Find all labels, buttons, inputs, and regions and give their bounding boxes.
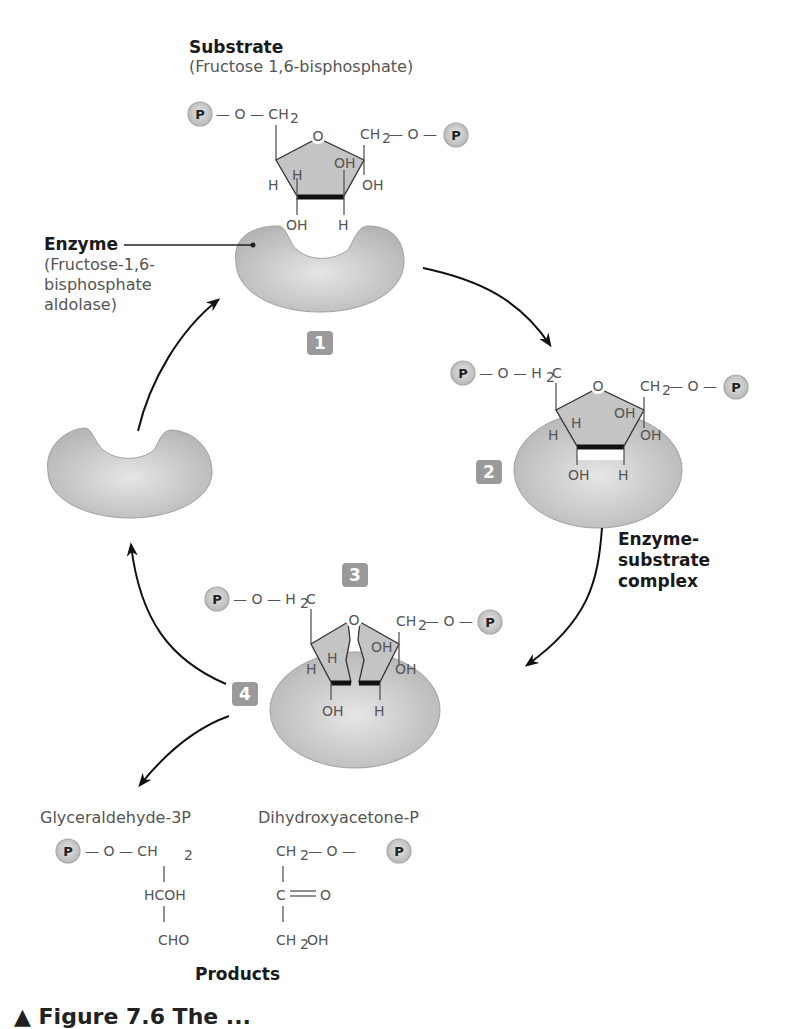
svg-text:— O — CH: — O — CH bbox=[85, 843, 158, 859]
enzyme-name-line-3: aldolase) bbox=[44, 296, 117, 314]
svg-text:OH: OH bbox=[334, 155, 356, 171]
complex-label-line-1: Enzyme- bbox=[618, 530, 699, 549]
complex-label-line-2: substrate bbox=[618, 551, 710, 570]
svg-text:H: H bbox=[548, 427, 559, 443]
svg-text:CH: CH bbox=[360, 126, 380, 142]
substrate-name: (Fructose 1,6-bisphosphate) bbox=[189, 58, 413, 76]
svg-text:C: C bbox=[306, 591, 316, 607]
svg-text:— O — H: — O — H bbox=[233, 591, 296, 607]
svg-text:H: H bbox=[306, 661, 317, 677]
svg-text:H: H bbox=[268, 177, 279, 193]
arrow-step2-to-3 bbox=[527, 528, 602, 665]
svg-text:H: H bbox=[327, 650, 338, 666]
complex-label-line-3: complex bbox=[618, 572, 698, 591]
figure-caption: ▲ Figure 7.6 The ... bbox=[14, 1004, 251, 1029]
arrow-step1-to-2 bbox=[423, 268, 550, 345]
svg-text:O: O bbox=[348, 612, 359, 628]
enzyme-title: Enzyme bbox=[44, 235, 118, 254]
svg-text:OH: OH bbox=[614, 405, 636, 421]
svg-text:H: H bbox=[338, 217, 349, 233]
svg-text:OH: OH bbox=[395, 661, 417, 677]
arrow-step4-to-free bbox=[131, 545, 226, 684]
svg-text:2: 2 bbox=[290, 110, 299, 126]
enzyme-substrate-complex: — O — H 2 C O CH 2 — O — OH OH H H OH H bbox=[451, 361, 748, 528]
svg-text:HCOH: HCOH bbox=[144, 887, 186, 903]
svg-text:H: H bbox=[571, 415, 582, 431]
svg-text:O: O bbox=[312, 128, 323, 144]
substrate-title: Substrate bbox=[189, 38, 283, 57]
svg-text:— O — CH: — O — CH bbox=[216, 106, 289, 122]
step-badge-3: 3 bbox=[342, 563, 368, 587]
svg-text:OH: OH bbox=[640, 427, 662, 443]
svg-text:OH: OH bbox=[371, 639, 393, 655]
svg-text:CH: CH bbox=[276, 932, 296, 948]
svg-text:OH: OH bbox=[307, 932, 329, 948]
svg-text:H: H bbox=[374, 703, 385, 719]
svg-text:OH: OH bbox=[322, 703, 344, 719]
product-dhap-name: Dihydroxyacetone-P bbox=[258, 809, 419, 827]
products-title: Products bbox=[195, 965, 280, 984]
svg-text:— O —: — O — bbox=[425, 613, 473, 629]
svg-text:O: O bbox=[320, 887, 331, 903]
arrow-step4-to-products bbox=[140, 716, 229, 785]
arrow-free-to-step1 bbox=[138, 300, 218, 431]
cleavage-complex: — O — H 2 C O CH 2 — O — OH OH H H OH H bbox=[205, 587, 502, 768]
svg-text:— O —: — O — bbox=[308, 843, 356, 859]
step-badge-2: 2 bbox=[476, 460, 502, 484]
enzyme-shape-1 bbox=[235, 226, 404, 312]
svg-text:H: H bbox=[292, 167, 303, 183]
svg-text:C: C bbox=[276, 887, 286, 903]
svg-text:— O — H: — O — H bbox=[479, 365, 542, 381]
product-dhap-structure: CH 2 — O — C O CH 2 OH bbox=[276, 839, 411, 952]
product-g3p-name: Glyceraldehyde-3P bbox=[40, 809, 191, 827]
svg-text:CH: CH bbox=[276, 843, 296, 859]
enzyme-name-line-1: (Fructose-1,6- bbox=[44, 256, 155, 274]
svg-text:C: C bbox=[552, 365, 562, 381]
svg-text:CH: CH bbox=[640, 378, 660, 394]
svg-text:O: O bbox=[592, 378, 603, 394]
svg-text:OH: OH bbox=[568, 467, 590, 483]
enzyme-shape-free bbox=[47, 428, 212, 518]
svg-text:H: H bbox=[618, 467, 629, 483]
step-badge-1: 1 bbox=[307, 331, 333, 355]
svg-text:CHO: CHO bbox=[158, 932, 189, 948]
step-badge-4: 4 bbox=[232, 682, 258, 706]
svg-text:2: 2 bbox=[184, 847, 193, 863]
svg-text:— O —: — O — bbox=[389, 126, 437, 142]
svg-text:— O —: — O — bbox=[669, 378, 717, 394]
substrate-molecule: — O — CH 2 O CH 2 — O — OH OH H H OH H bbox=[188, 102, 468, 233]
svg-text:OH: OH bbox=[362, 177, 384, 193]
svg-text:CH: CH bbox=[396, 613, 416, 629]
enzyme-name-line-2: bisphosphate bbox=[44, 276, 152, 294]
svg-text:OH: OH bbox=[286, 217, 308, 233]
product-g3p-structure: — O — CH 2 HCOH CHO bbox=[56, 839, 193, 948]
